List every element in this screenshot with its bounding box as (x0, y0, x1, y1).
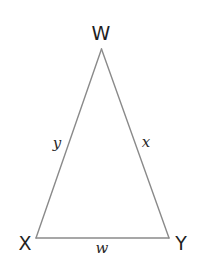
side-wy (102, 49, 170, 238)
vertex-label-x: X (18, 232, 31, 254)
vertex-label-y: Y (174, 232, 187, 254)
triangle-diagram: W X Y y x w (0, 0, 198, 273)
side-label-w: w (96, 239, 109, 257)
side-label-y: y (52, 134, 62, 152)
vertex-label-w: W (92, 22, 111, 44)
side-label-x: x (142, 133, 151, 151)
side-wx (36, 49, 102, 238)
